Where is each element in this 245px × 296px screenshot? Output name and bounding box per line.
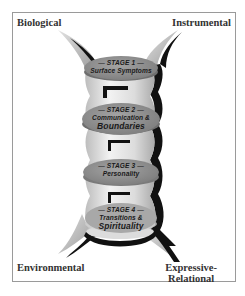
stage-3-title: Personality	[83, 170, 159, 178]
stage-1-title: Surface Symptoms	[84, 67, 158, 75]
stage-3-label: — STAGE 3 — Personality	[83, 162, 159, 177]
stage-3-number: — STAGE 3 —	[83, 162, 159, 170]
label-expressive: Expressive-	[165, 262, 217, 273]
stage-2-title-line2: Boundaries	[82, 121, 160, 131]
stage-2-number: — STAGE 2 —	[82, 106, 160, 114]
stages-column-illustration	[0, 0, 245, 296]
stage-1-number: — STAGE 1 —	[84, 59, 158, 67]
stage-1-label: — STAGE 1 — Surface Symptoms	[84, 59, 158, 74]
stage-2-label: — STAGE 2 — Communication & Boundaries	[82, 106, 160, 131]
label-expressive-relational: Expressive- Relational	[165, 262, 217, 284]
stage-4-number: — STAGE 4 —	[85, 206, 157, 214]
label-environmental: Environmental	[17, 262, 84, 273]
label-instrumental: Instrumental	[172, 17, 231, 28]
stage-4-title-line1: Transitions &	[85, 214, 157, 222]
label-biological: Biological	[17, 17, 61, 28]
stage-4-label: — STAGE 4 — Transitions & Spirituality	[85, 206, 157, 231]
stage-4-title-line2: Spirituality	[85, 221, 157, 231]
label-relational: Relational	[165, 273, 217, 284]
stage-2-title-line1: Communication &	[82, 114, 160, 122]
